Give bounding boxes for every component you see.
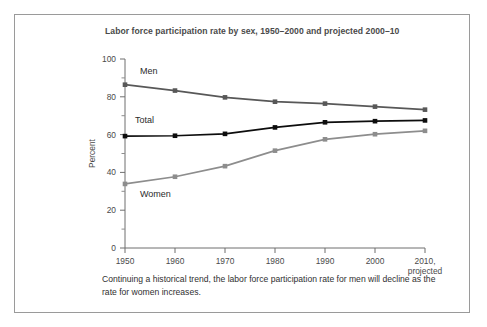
- data-point-men: [123, 82, 128, 87]
- x-tick-label: 1950: [116, 256, 135, 266]
- data-point-total: [373, 119, 378, 124]
- data-point-women: [123, 182, 128, 187]
- y-tick-label: 80: [107, 92, 117, 102]
- x-tick-label: 1960: [166, 256, 185, 266]
- x-tick-label: 1970: [216, 256, 235, 266]
- data-point-total: [173, 133, 178, 138]
- x-tick-label: 1980: [266, 256, 285, 266]
- x-tick-label: 1990: [316, 256, 335, 266]
- data-point-total: [123, 134, 128, 139]
- x-tick-label: 2010,: [415, 256, 436, 266]
- series-label-men: Men: [140, 66, 158, 76]
- series-label-women: Women: [140, 189, 171, 199]
- data-point-women: [273, 148, 278, 153]
- data-point-men: [423, 107, 428, 112]
- chart-plot-area: 020406080100Percent195019601970198019902…: [15, 15, 471, 314]
- data-point-total: [273, 125, 278, 130]
- y-axis-title: Percent: [87, 138, 97, 168]
- data-point-women: [173, 174, 178, 179]
- data-point-men: [323, 101, 328, 106]
- data-point-total: [323, 120, 328, 125]
- data-point-men: [223, 95, 228, 100]
- chart-svg: 020406080100Percent195019601970198019902…: [15, 15, 471, 314]
- data-point-women: [423, 129, 428, 134]
- x-tick-label: 2000: [366, 256, 385, 266]
- data-point-men: [373, 104, 378, 109]
- data-point-men: [173, 88, 178, 93]
- data-point-total: [223, 132, 228, 137]
- data-point-women: [323, 137, 328, 142]
- y-tick-label: 40: [107, 167, 117, 177]
- y-tick-label: 60: [107, 130, 117, 140]
- data-point-women: [223, 164, 228, 169]
- series-label-total: Total: [135, 115, 154, 125]
- y-tick-label: 20: [107, 205, 117, 215]
- figure-caption: Continuing a historical trend, the labor…: [102, 273, 452, 298]
- series-line-women: [125, 131, 425, 184]
- y-tick-label: 100: [102, 54, 116, 64]
- data-point-total: [423, 118, 428, 123]
- series-line-men: [125, 85, 425, 110]
- data-point-women: [373, 132, 378, 137]
- y-tick-label: 0: [111, 243, 116, 253]
- data-point-men: [273, 99, 278, 104]
- figure-frame: Labor force participation rate by sex, 1…: [14, 14, 470, 313]
